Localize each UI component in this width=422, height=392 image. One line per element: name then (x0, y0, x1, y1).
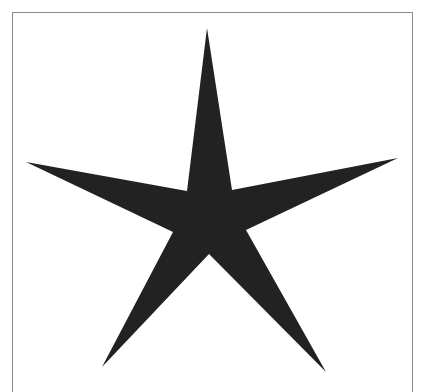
star-icon (26, 28, 398, 372)
